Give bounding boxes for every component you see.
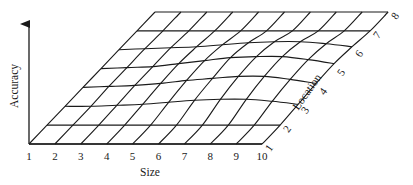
size-axis-label: Size <box>140 166 160 178</box>
location-tick: 5 <box>334 66 347 78</box>
size-tick: 2 <box>52 150 58 162</box>
location-tick: 7 <box>370 29 383 41</box>
location-tick: 6 <box>352 47 365 59</box>
surface-wireframe <box>29 12 388 144</box>
size-tick: 7 <box>182 150 188 162</box>
size-tick: 6 <box>156 150 162 162</box>
location-tick: 4 <box>316 85 329 97</box>
location-row-line <box>65 99 298 106</box>
location-tick: 2 <box>280 123 293 134</box>
size-column-line <box>133 12 259 144</box>
size-tick: 5 <box>130 150 136 162</box>
surface-plot: 12345678910 12345678 Accuracy Size Locat… <box>0 0 413 185</box>
size-tick-labels: 12345678910 <box>26 150 268 162</box>
size-column-line <box>81 12 207 144</box>
size-column-line <box>55 12 181 144</box>
size-tick: 8 <box>208 150 214 162</box>
location-row-line <box>119 42 352 50</box>
location-tick: 8 <box>388 10 401 22</box>
size-tick: 9 <box>233 150 239 162</box>
size-tick: 3 <box>78 150 84 162</box>
size-tick: 10 <box>257 150 269 162</box>
size-tick: 4 <box>104 150 110 162</box>
accuracy-axis-label: Accuracy <box>8 64 21 108</box>
size-column-line <box>29 12 155 144</box>
location-row-line <box>83 76 316 87</box>
size-tick: 1 <box>26 150 32 162</box>
